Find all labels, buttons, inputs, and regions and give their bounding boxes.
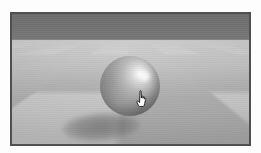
screenshot-root — [0, 0, 261, 153]
sphere-rim-light — [100, 56, 160, 116]
hand-cursor-icon — [136, 90, 149, 107]
sky-band — [12, 14, 249, 40]
hand-cursor[interactable] — [136, 90, 149, 107]
sphere[interactable] — [100, 56, 160, 116]
render-frame — [10, 12, 251, 146]
